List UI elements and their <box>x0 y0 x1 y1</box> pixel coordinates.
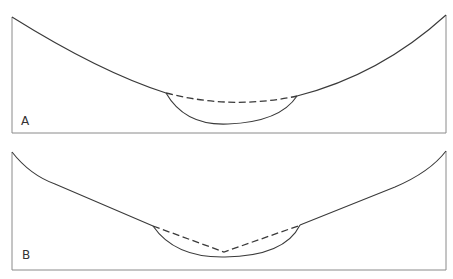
panel-a-former-profile-dashed <box>166 93 297 102</box>
valley-profiles-diagram: A B <box>0 0 453 279</box>
panel-b-former-profile-dashed <box>153 226 298 252</box>
panel-a-label: A <box>21 114 30 128</box>
panel-a-outer-profile-right <box>297 15 446 96</box>
panel-a: A <box>12 15 446 133</box>
panel-b-inner-channel <box>153 225 300 257</box>
panel-a-inner-channel <box>166 93 297 124</box>
panel-a-frame <box>12 15 446 133</box>
panel-a-outer-profile-left <box>12 17 166 93</box>
panel-b-frame <box>12 151 446 270</box>
panel-b-outer-profile-right <box>300 151 446 225</box>
panel-b-outer-profile-left <box>12 152 153 226</box>
panel-b: B <box>12 151 446 270</box>
panel-b-label: B <box>22 248 30 262</box>
